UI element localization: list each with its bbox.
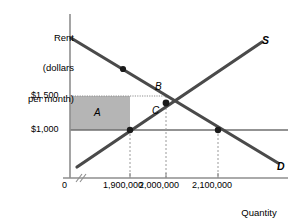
equilibrium-point — [163, 100, 170, 107]
shortage-demand-point — [215, 127, 221, 133]
region-a-label: A — [94, 108, 101, 119]
y-axis-title-line1: Rent — [2, 33, 74, 43]
x-tick-label-1900000: 1,900,000 — [103, 181, 143, 191]
x-tick-label-2100000: 2,100,000 — [192, 181, 232, 191]
x-tick-label-2000000: 2,000,000 — [139, 181, 179, 191]
shortage-supply-point — [127, 127, 133, 133]
region-c-label: C — [152, 106, 159, 117]
y-axis-title-line2: (dollars — [2, 63, 74, 73]
demand-curve-label: D — [277, 161, 285, 172]
y-tick-label-1000: $1,000 — [31, 125, 59, 135]
demand-upper-point — [120, 66, 126, 72]
supply-curve-label: S — [262, 35, 269, 46]
x-axis-title: Quantity (apartments per month) — [222, 187, 296, 224]
supply-demand-chart: Rent (dollars per month) Quantity (apart… — [0, 0, 298, 224]
y-axis-title: Rent (dollars per month) — [2, 12, 74, 125]
x-tick-label-0: 0 — [62, 181, 67, 191]
x-axis-title-line1: Quantity — [222, 208, 296, 218]
y-tick-label-1500: $1,500 — [31, 91, 59, 101]
region-b-label: B — [155, 82, 162, 93]
